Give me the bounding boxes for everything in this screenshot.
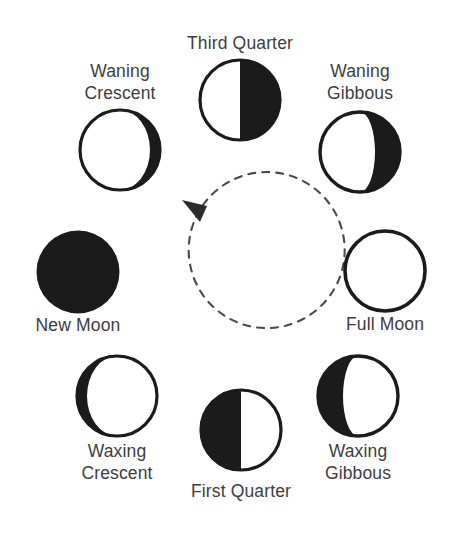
phase-label-new-moon: New Moon <box>0 314 158 336</box>
moon-icon-waxing-gibbous <box>314 352 402 440</box>
moon-icon-new-moon <box>34 228 122 316</box>
phase-label-waning-crescent: Waning Crescent <box>40 60 200 104</box>
phase-label-third-quarter: Third Quarter <box>140 32 340 54</box>
phase-label-full-moon: Full Moon <box>305 313 462 335</box>
moon-icon-first-quarter <box>197 386 285 474</box>
phase-label-waxing-gibbous: Waxing Gibbous <box>278 440 438 484</box>
moon-phases-diagram: Waning Crescent Third Quarter Waning Gib… <box>0 0 462 541</box>
moon-icon-waxing-crescent <box>73 352 161 440</box>
phase-label-waning-gibbous: Waning Gibbous <box>280 60 440 104</box>
moon-icon-waning-gibbous <box>316 108 404 196</box>
moon-icon-third-quarter <box>196 56 284 144</box>
rotation-arrowhead-icon <box>182 200 207 222</box>
phase-label-waxing-crescent: Waxing Crescent <box>37 440 197 484</box>
moon-icon-full-moon <box>341 227 429 315</box>
moon-icon-waning-crescent <box>76 106 164 194</box>
